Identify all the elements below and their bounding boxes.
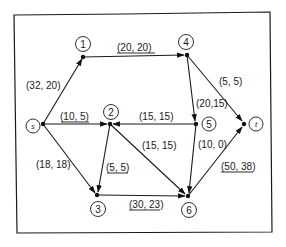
node-dot-5 bbox=[194, 122, 198, 126]
edge-label-3-6: (30, 23) bbox=[129, 199, 163, 210]
node-t: t bbox=[249, 117, 263, 131]
node-6: 6 bbox=[182, 203, 197, 218]
edge-label-s-3: (18, 18) bbox=[36, 159, 70, 170]
node-label-1: 1 bbox=[80, 39, 86, 50]
node-label-5: 5 bbox=[206, 119, 212, 130]
node-label-2: 2 bbox=[108, 107, 114, 118]
edge-3-6 bbox=[97, 195, 185, 196]
edge-labels: (32, 20) (20, 20) (10, 5) (18, 18) (15, … bbox=[26, 42, 255, 210]
node-1: 1 bbox=[76, 37, 91, 52]
node-2: 2 bbox=[104, 105, 119, 120]
node-label-3: 3 bbox=[95, 204, 101, 215]
node-label-s: s bbox=[31, 123, 35, 130]
node-3: 3 bbox=[91, 202, 106, 217]
edge-5-6 bbox=[189, 124, 196, 193]
edge-label-s-1: (32, 20) bbox=[26, 80, 60, 91]
node-5: 5 bbox=[202, 117, 216, 131]
edge-label-1-4: (20, 20) bbox=[117, 42, 151, 53]
edge-label-4-t: (5, 5) bbox=[219, 76, 242, 87]
edge-label-4-5: (20,15) bbox=[196, 98, 228, 109]
node-dot-t bbox=[242, 122, 246, 126]
node-dot-3 bbox=[95, 193, 99, 197]
edge-label-5-6: (10, 0) bbox=[198, 139, 227, 150]
edge-2-6 bbox=[110, 124, 185, 194]
node-label-4: 4 bbox=[183, 37, 189, 48]
node-dot-6 bbox=[186, 194, 190, 198]
node-dot-4 bbox=[185, 53, 189, 57]
edge-label-2-3: (5, 5) bbox=[106, 162, 129, 173]
edge-label-5-2: (15, 15) bbox=[139, 111, 173, 122]
node-dot-1 bbox=[81, 55, 85, 59]
node-dot-2 bbox=[108, 122, 112, 126]
edge-label-6-t: (50, 38) bbox=[221, 161, 255, 172]
node-dot-s bbox=[41, 122, 45, 126]
node-4: 4 bbox=[179, 35, 194, 50]
edge-label-s-2: (10, 5) bbox=[60, 111, 89, 122]
node-s: s bbox=[26, 119, 40, 133]
flow-network-diagram: s 1 2 3 4 5 6 t (32, 20) (20, 20) (10, 5… bbox=[0, 0, 286, 247]
edge-4-5 bbox=[187, 55, 195, 121]
edge-label-2-6: (15, 15) bbox=[142, 140, 176, 151]
edge-4-t bbox=[187, 55, 242, 121]
node-label-6: 6 bbox=[186, 205, 192, 216]
edge-1-4 bbox=[83, 55, 184, 57]
edge-2-3 bbox=[98, 124, 110, 192]
